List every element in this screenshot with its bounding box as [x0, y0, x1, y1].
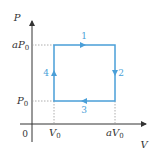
tick-aP0: aP0: [12, 39, 29, 52]
origin-label: 0: [22, 129, 28, 139]
tick-aV0: aV0: [106, 127, 124, 140]
x-axis-label: V: [140, 139, 149, 150]
arrow-2-down-icon: [112, 70, 118, 76]
cycle-path: [54, 45, 115, 101]
process-label-2: 2: [118, 68, 124, 78]
pv-diagram: 1 2 3 4 P V 0 aP0 P0 V0 aV0: [0, 0, 159, 153]
y-axis-label: P: [13, 12, 21, 23]
arrow-3-left-icon: [81, 98, 87, 104]
process-label-4: 4: [43, 68, 49, 78]
tick-P0: P0: [16, 95, 28, 108]
process-label-3: 3: [81, 105, 87, 115]
arrow-4-up-icon: [51, 70, 57, 76]
tick-V0: V0: [49, 127, 61, 140]
process-label-1: 1: [81, 31, 87, 41]
arrow-1-right-icon: [80, 42, 86, 48]
